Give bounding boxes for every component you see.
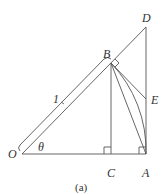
label-O: O [8,147,17,161]
length-label: 1 [53,92,59,106]
segment-OD [22,27,146,154]
label-E: E [150,93,159,107]
length-bracket [19,58,112,152]
right-angle-C [104,147,111,154]
right-angle-B [115,59,119,67]
geometry-diagram: O C A B D E θ 1 (a) [0,0,165,194]
segment-BA [111,63,146,154]
label-A: A [141,166,150,180]
figure-caption: (a) [75,181,88,194]
label-C: C [107,166,116,180]
angle-theta-label: θ [38,140,44,154]
label-D: D [141,11,151,25]
label-B: B [103,47,111,61]
